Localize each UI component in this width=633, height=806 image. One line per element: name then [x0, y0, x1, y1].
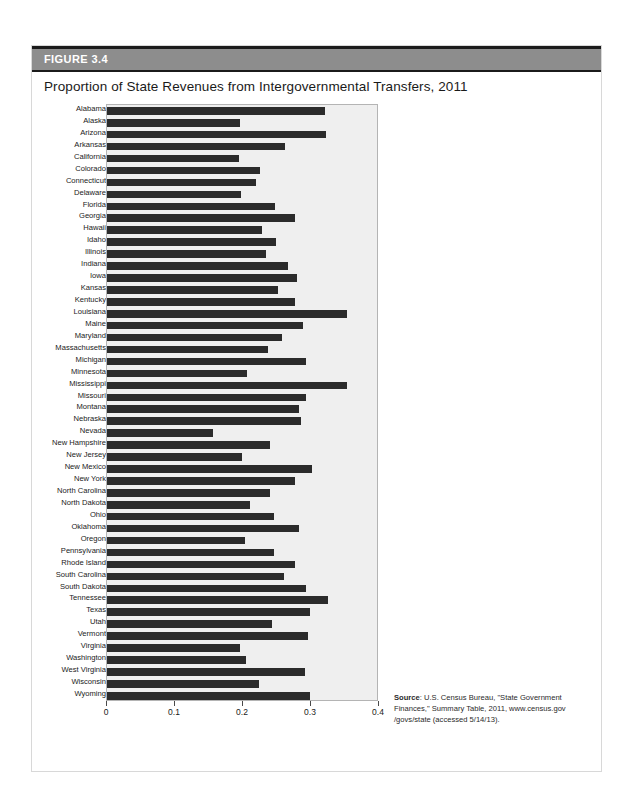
chart-title: Proportion of State Revenues from Interg…: [44, 79, 468, 94]
bar-row: [107, 439, 377, 451]
bar: [107, 370, 247, 378]
figure-number-label: FIGURE 3.4: [44, 53, 108, 65]
bar-row: [107, 236, 377, 248]
axis-tick-label: 0.1: [168, 707, 180, 717]
axis-tick: [242, 701, 243, 706]
category-label: New Hampshire: [52, 437, 106, 449]
bar: [107, 274, 297, 282]
category-label: Minnesota: [71, 366, 106, 378]
category-label: Florida: [83, 199, 106, 211]
bar: [107, 465, 312, 473]
bar-row: [107, 547, 377, 559]
bar-row: [107, 105, 377, 117]
bar-row: [107, 678, 377, 690]
bar-row: [107, 392, 377, 404]
bar-row: [107, 189, 377, 201]
bar-row: [107, 606, 377, 618]
bar-row: [107, 499, 377, 511]
bar: [107, 286, 278, 294]
bar-row: [107, 332, 377, 344]
category-label: California: [74, 151, 106, 163]
bar: [107, 405, 299, 413]
category-label: Washington: [66, 652, 106, 664]
bar-row: [107, 224, 377, 236]
bar: [107, 513, 274, 521]
category-label: New Jersey: [66, 449, 106, 461]
bar: [107, 334, 282, 342]
bar-row: [107, 403, 377, 415]
bar: [107, 250, 266, 258]
figure-page: FIGURE 3.4 Proportion of State Revenues …: [0, 0, 633, 806]
bar: [107, 179, 256, 187]
source-note: Source: U.S. Census Bureau, "State Gover…: [394, 692, 594, 725]
figure-header-rule: [32, 70, 601, 72]
category-label: Arkansas: [74, 139, 106, 151]
category-label: Nevada: [80, 425, 106, 437]
axis-tick-label: 0.4: [372, 707, 384, 717]
category-label: New Mexico: [65, 461, 106, 473]
axis-tick: [378, 701, 379, 706]
category-label: Arizona: [80, 127, 106, 139]
bar: [107, 322, 303, 330]
bar-row: [107, 618, 377, 630]
bar-row: [107, 571, 377, 583]
category-label: Rhode Island: [61, 557, 106, 569]
bar: [107, 668, 305, 676]
axis-tick: [310, 701, 311, 706]
bar-row: [107, 165, 377, 177]
bar: [107, 155, 239, 163]
bar: [107, 632, 308, 640]
bar: [107, 358, 306, 366]
category-label: Pennsylvania: [61, 545, 106, 557]
category-label: Idaho: [87, 234, 106, 246]
bar: [107, 238, 276, 246]
chart-plot-wrapper: AlabamaAlaskaArizonaArkansasCaliforniaCo…: [32, 104, 603, 724]
category-label: Vermont: [78, 628, 106, 640]
category-label: Nebraska: [74, 413, 107, 425]
bar-series: [107, 105, 377, 700]
value-axis: 00.10.20.30.4: [106, 701, 378, 731]
category-label: Texas: [86, 604, 106, 616]
bar-row: [107, 630, 377, 642]
bar: [107, 346, 268, 354]
category-label: Virginia: [81, 640, 106, 652]
figure-header-band: FIGURE 3.4: [32, 49, 601, 70]
bar-row: [107, 487, 377, 499]
category-label: Alaska: [83, 115, 106, 127]
category-axis-labels: AlabamaAlaskaArizonaArkansasCaliforniaCo…: [32, 104, 106, 701]
category-label: Tennessee: [69, 592, 106, 604]
category-label: Louisiana: [73, 306, 106, 318]
bar: [107, 262, 288, 270]
category-label: Hawaii: [83, 222, 106, 234]
category-label: Montana: [76, 401, 106, 413]
category-label: Michigan: [76, 354, 106, 366]
bar: [107, 119, 240, 127]
bar: [107, 226, 262, 234]
bar: [107, 143, 285, 151]
bar-row: [107, 356, 377, 368]
bar: [107, 620, 272, 628]
bar-row: [107, 427, 377, 439]
category-label: Kentucky: [75, 294, 106, 306]
bar: [107, 453, 242, 461]
category-label: Maine: [85, 318, 106, 330]
bar: [107, 167, 260, 175]
category-label: South Carolina: [56, 569, 106, 581]
category-label: Missouri: [78, 390, 106, 402]
category-label: Georgia: [79, 210, 106, 222]
bar-row: [107, 463, 377, 475]
bar-row: [107, 380, 377, 392]
bar-row: [107, 248, 377, 260]
bar: [107, 537, 245, 545]
category-label: Colorado: [75, 163, 106, 175]
bar: [107, 382, 347, 390]
bar-row: [107, 451, 377, 463]
category-label: North Dakota: [61, 497, 106, 509]
bar-row: [107, 296, 377, 308]
bar: [107, 429, 213, 437]
bar: [107, 489, 270, 497]
bar: [107, 585, 306, 593]
bar-row: [107, 129, 377, 141]
category-label: Oregon: [81, 533, 106, 545]
plot-area: [106, 104, 378, 701]
